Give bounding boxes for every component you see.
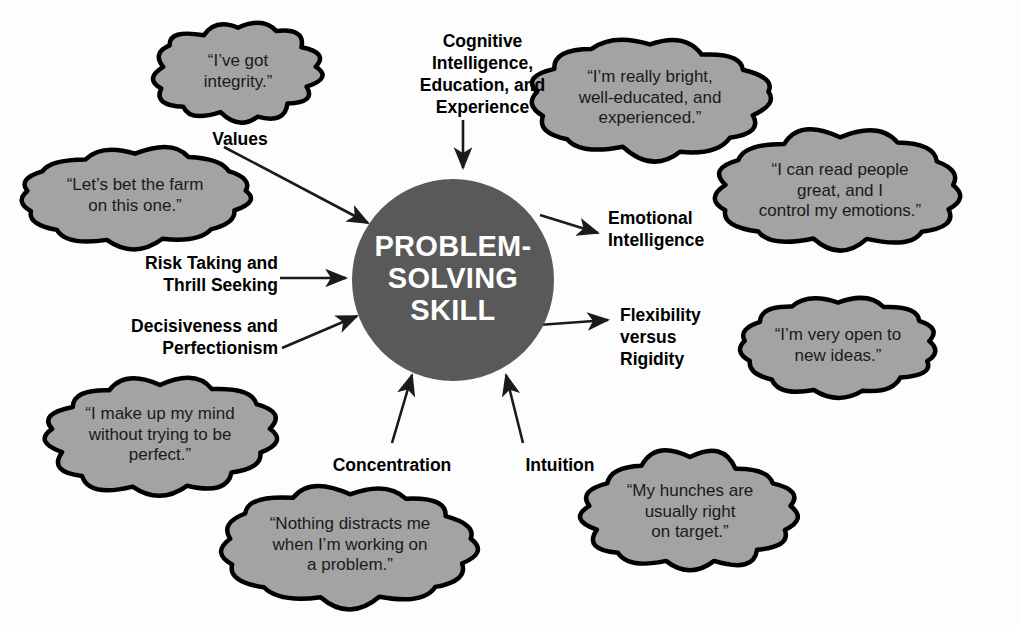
arrow-intuition-to-core xyxy=(506,375,523,443)
factor-label-intuition: Intuition xyxy=(500,455,620,477)
arrow-decisiveness-to-core xyxy=(282,316,357,348)
thought-cloud-flexibility xyxy=(740,298,935,398)
core-circle xyxy=(352,179,554,381)
thought-cloud-values xyxy=(153,23,323,123)
factor-label-risk-taking: Risk Taking and Thrill Seeking xyxy=(78,253,278,297)
factor-label-emotional-intelligence: Emotional Intelligence xyxy=(608,208,768,252)
factor-label-cognitive-intelligence: Cognitive Intelligence, Education, and E… xyxy=(390,31,575,119)
factor-label-flexibility: Flexibility versus Rigidity xyxy=(620,305,750,371)
arrow-core-to-flexibility xyxy=(538,320,608,325)
thought-cloud-decisiveness xyxy=(45,378,277,496)
diagram-canvas: PROBLEM- SOLVING SKILL Cognitive Intelli… xyxy=(0,0,1020,625)
arrow-core-to-emotional xyxy=(540,215,598,233)
core-circle-group xyxy=(352,179,554,381)
arrow-concentration-to-core xyxy=(392,375,412,443)
thought-cloud-concentration xyxy=(221,486,478,610)
factor-label-concentration: Concentration xyxy=(312,455,472,477)
factor-label-values: Values xyxy=(175,129,305,151)
thought-cloud-risk-taking xyxy=(22,147,251,250)
factor-label-decisiveness: Decisiveness and Perfectionism xyxy=(70,316,278,360)
